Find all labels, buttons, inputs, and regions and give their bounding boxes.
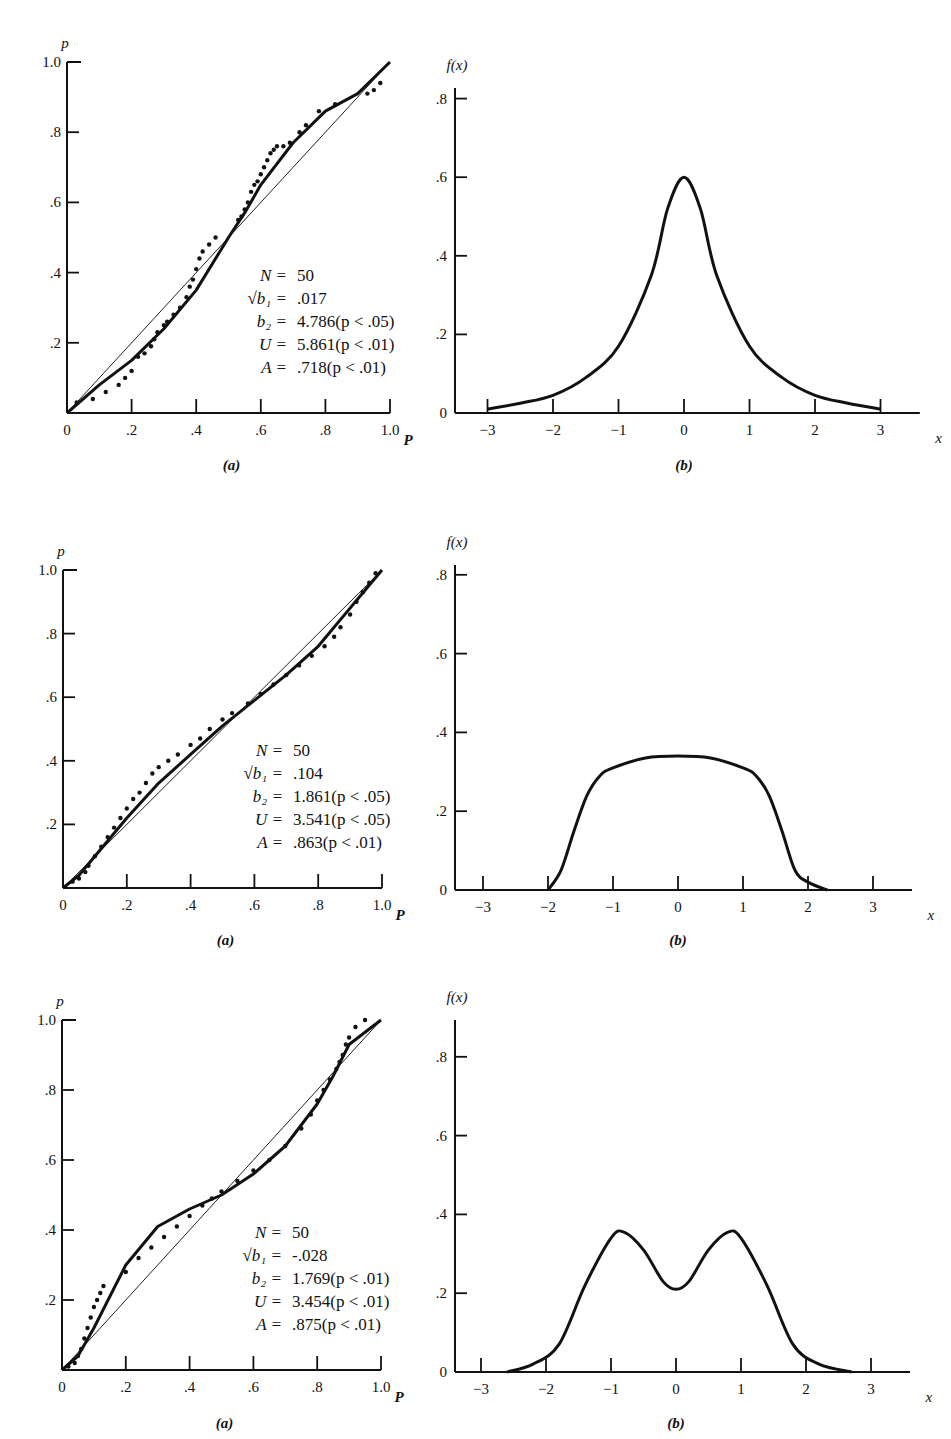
- x-tick-label: 2: [802, 1381, 810, 1397]
- data-point: [309, 1112, 313, 1116]
- data-point: [144, 781, 148, 785]
- density-plot-2: 0.2.4.6.8−3−2−10123f(x)x(b): [436, 534, 935, 949]
- y-tick-label: .6: [436, 169, 448, 185]
- x-tick-label: .2: [120, 1379, 131, 1395]
- x-axis-label: P: [394, 1389, 404, 1405]
- y-tick-label: 1.0: [38, 562, 57, 578]
- stat-label: √b₁ =: [243, 1246, 282, 1265]
- data-point: [162, 323, 166, 327]
- x-axis-label: x: [924, 1389, 932, 1405]
- y-tick-label: .6: [46, 689, 58, 705]
- data-point: [275, 144, 279, 148]
- data-point: [74, 400, 78, 404]
- data-point: [105, 835, 109, 839]
- y-tick-label: .6: [45, 1152, 57, 1168]
- y-tick-label: .4: [45, 1222, 57, 1238]
- x-tick-label: 0: [58, 1379, 66, 1395]
- x-tick-label: 0: [674, 899, 682, 915]
- data-point: [334, 1067, 338, 1071]
- data-point: [70, 879, 74, 883]
- data-point: [365, 91, 369, 95]
- density-curve: [488, 177, 881, 409]
- x-tick-label: 2: [811, 422, 819, 438]
- data-point: [66, 1364, 70, 1368]
- y-tick-label: 1.0: [42, 54, 61, 70]
- y-tick-label: .6: [436, 646, 448, 662]
- data-point: [152, 337, 156, 341]
- data-point: [125, 806, 129, 810]
- x-tick-label: .4: [184, 1379, 196, 1395]
- data-point: [131, 797, 135, 801]
- x-tick-label: .8: [313, 897, 324, 913]
- stat-label: A =: [260, 358, 287, 377]
- data-point: [284, 673, 288, 677]
- data-point: [333, 102, 337, 106]
- density-curve: [548, 756, 828, 890]
- y-axis-label: p: [55, 993, 64, 1009]
- x-tick-label: .4: [191, 422, 203, 438]
- y-tick-label: 0: [440, 405, 448, 421]
- stat-label: N =: [255, 741, 283, 760]
- panel-caption: (a): [223, 457, 241, 474]
- data-point: [249, 190, 253, 194]
- y-tick-label: .8: [46, 626, 57, 642]
- data-point: [175, 1224, 179, 1228]
- data-point: [83, 870, 87, 874]
- stat-value: 3.541(p < .05): [293, 810, 390, 829]
- data-point: [92, 1305, 96, 1309]
- data-point: [184, 295, 188, 299]
- stat-value: 1.861(p < .05): [293, 787, 390, 806]
- data-point: [246, 701, 250, 705]
- x-axis-label: x: [926, 907, 934, 923]
- data-point: [123, 376, 127, 380]
- y-tick-label: .4: [436, 1206, 448, 1222]
- data-point: [252, 183, 256, 187]
- data-point: [367, 581, 371, 585]
- data-point: [129, 369, 133, 373]
- data-point: [157, 765, 161, 769]
- data-point: [176, 752, 180, 756]
- panel-caption: (a): [217, 932, 235, 949]
- stat-value: 50: [293, 741, 310, 760]
- x-tick-label: 1.0: [381, 422, 400, 438]
- data-point: [171, 313, 175, 317]
- stat-label: A =: [255, 1315, 282, 1334]
- stat-value: 4.786(p < .05): [297, 312, 394, 331]
- y-axis-label: p: [56, 543, 65, 559]
- y-tick-label: .8: [50, 124, 61, 140]
- x-tick-label: 3: [877, 422, 885, 438]
- data-point: [354, 600, 358, 604]
- data-point: [283, 1144, 287, 1148]
- density-plot-3: 0.2.4.6.8−3−2−10123f(x)x(b): [436, 989, 933, 1432]
- y-tick-label: .2: [50, 335, 61, 351]
- x-tick-label: −2: [540, 899, 556, 915]
- stat-label: U =: [254, 1292, 282, 1311]
- panel-caption: (b): [675, 457, 693, 474]
- x-tick-label: 0: [672, 1381, 680, 1397]
- y-tick-label: .2: [436, 326, 447, 342]
- stats-block: N =50√b₁ =.104b₂ =1.861(p < .05)U =3.541…: [244, 741, 391, 852]
- y-tick-label: .2: [436, 803, 447, 819]
- stat-value: 50: [297, 266, 314, 285]
- x-tick-label: −1: [611, 422, 627, 438]
- data-point: [297, 663, 301, 667]
- y-tick-label: .2: [436, 1285, 447, 1301]
- stat-value: 5.861(p < .01): [297, 335, 394, 354]
- data-point: [271, 682, 275, 686]
- data-point: [155, 330, 159, 334]
- y-axis-label: f(x): [447, 534, 468, 551]
- y-tick-label: .4: [50, 265, 62, 281]
- y-tick-label: .4: [46, 753, 58, 769]
- data-point: [77, 876, 81, 880]
- data-point: [207, 242, 211, 246]
- data-point: [347, 1035, 351, 1039]
- data-point: [322, 644, 326, 648]
- figure-canvas: .2.4.6.81.00.2.4.6.81.0pP(a)N =50√b₁ =.0…: [0, 0, 951, 1439]
- y-tick-label: .6: [50, 194, 62, 210]
- stat-label: N =: [254, 1223, 282, 1242]
- x-tick-label: 2: [804, 899, 812, 915]
- stats-block: N =50√b₁ =-.028b₂ =1.769(p < .01)U =3.45…: [243, 1223, 390, 1334]
- stat-value: -.028: [292, 1246, 327, 1265]
- data-point: [197, 256, 201, 260]
- data-point: [136, 355, 140, 359]
